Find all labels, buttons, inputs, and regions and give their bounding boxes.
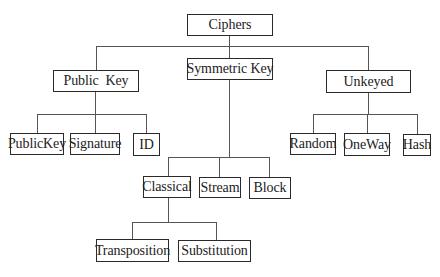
- node-publickey: PublicKey: [10, 133, 64, 155]
- node-substitution: Substitution: [178, 240, 251, 262]
- connector-level1-bar: [96, 46, 369, 47]
- node-id: ID: [133, 133, 160, 156]
- node-signature: Signature: [70, 133, 120, 155]
- connector-public-key-bar: [37, 114, 147, 115]
- connector-classical-bar: [132, 222, 217, 223]
- node-public-key: Public Key: [53, 70, 139, 92]
- node-block: Block: [249, 177, 291, 199]
- connector-to-oneway: [367, 114, 368, 133]
- connector-to-publickey: [37, 114, 38, 133]
- connector-public-key-down: [95, 92, 96, 114]
- node-symmetric-key: Symmetric Key: [187, 58, 273, 80]
- connector-to-random: [313, 114, 314, 133]
- node-unkeyed: Unkeyed: [326, 70, 411, 93]
- connector-to-hash: [417, 114, 418, 134]
- connector-to-unkeyed: [368, 46, 369, 70]
- connector-to-public-key: [96, 46, 97, 70]
- node-classical: Classical: [143, 176, 191, 198]
- node-hash: Hash: [403, 134, 431, 156]
- connector-to-block: [269, 157, 270, 177]
- connector-symmetric-key-down: [229, 80, 230, 157]
- connector-to-substitution: [216, 222, 217, 240]
- node-oneway: OneWay: [344, 133, 390, 156]
- connector-unkeyed-bar: [313, 114, 418, 115]
- connector-to-stream: [219, 157, 220, 177]
- connector-unkeyed-down: [368, 93, 369, 114]
- cipher-taxonomy-diagram: Ciphers Public Key Symmetric Key Unkeyed…: [0, 0, 440, 277]
- node-transposition: Transposition: [96, 239, 169, 262]
- connector-to-transposition: [132, 222, 133, 239]
- connector-to-classical: [168, 157, 169, 176]
- connector-to-id: [146, 114, 147, 133]
- node-random: Random: [290, 133, 336, 155]
- node-ciphers: Ciphers: [187, 14, 273, 36]
- connector-to-signature: [95, 114, 96, 133]
- connector-classical-down: [168, 198, 169, 222]
- node-stream: Stream: [199, 177, 241, 198]
